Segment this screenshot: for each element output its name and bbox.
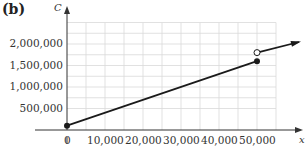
x-axis-label: x — [299, 134, 305, 145]
y-axis-label: C — [54, 2, 62, 13]
filled-point-marker — [64, 123, 70, 129]
open-point-marker — [254, 50, 260, 56]
data-series — [64, 41, 301, 129]
x-axis-arrow-icon — [295, 127, 303, 133]
line-chart — [0, 0, 307, 156]
y-tick-label: 1,500,000 — [10, 59, 63, 71]
y-tick-label: 1,000,000 — [10, 80, 63, 92]
x-tick-label: 50,000 — [239, 134, 276, 146]
x-tick-label: 0 — [64, 134, 71, 146]
x-tick-label: 20,000 — [125, 134, 162, 146]
filled-point-marker — [254, 58, 260, 64]
x-tick-label: 30,000 — [163, 134, 200, 146]
grid — [67, 23, 276, 131]
x-tick-label: 10,000 — [87, 134, 124, 146]
y-tick-label: 2,000,000 — [10, 37, 63, 49]
x-tick-label: 40,000 — [201, 134, 238, 146]
y-tick-label: 500,000 — [20, 102, 63, 114]
line-arrow-icon — [291, 41, 301, 47]
y-axis-arrow-icon — [64, 6, 70, 14]
